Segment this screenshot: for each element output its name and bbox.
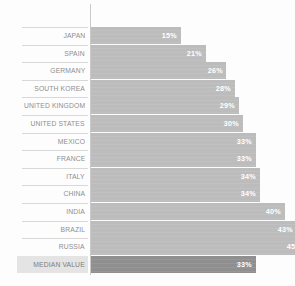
- bar-value-label: 34%: [241, 189, 256, 198]
- chart-row: FRANCE33%: [0, 150, 295, 167]
- category-label-cell: SPAIN: [22, 45, 88, 62]
- category-label-cell: MEDIAN VALUE: [17, 256, 88, 273]
- category-label: SOUTH KOREA: [34, 84, 85, 93]
- category-label: FRANCE: [56, 154, 85, 163]
- bar-value-label: 21%: [187, 49, 202, 58]
- horizontal-bar-chart: JAPAN15%SPAIN21%GERMANY26%SOUTH KOREA28%…: [0, 0, 295, 286]
- category-label: RUSSIA: [59, 242, 85, 251]
- bar: 40%: [91, 203, 285, 220]
- bar: 28%: [91, 80, 235, 97]
- chart-row: SPAIN21%: [0, 45, 295, 62]
- bar-value-label: 33%: [237, 154, 252, 163]
- category-label-cell: BRAZIL: [22, 221, 88, 238]
- category-label-cell: ITALY: [22, 168, 88, 185]
- chart-row: ITALY34%: [0, 168, 295, 185]
- category-label: UNITED KINGDOM: [24, 101, 85, 110]
- chart-row: MEXICO33%: [0, 133, 295, 150]
- category-label-cell: GERMANY: [22, 62, 88, 79]
- bar: 34%: [91, 168, 260, 185]
- bar-value-label: 30%: [224, 119, 239, 128]
- category-label: SPAIN: [65, 49, 85, 58]
- bar: 29%: [91, 97, 239, 114]
- bar-value-label: 28%: [216, 84, 231, 93]
- bar: 33%: [91, 133, 256, 150]
- chart-row: UNITED STATES30%: [0, 115, 295, 132]
- bar: 30%: [91, 115, 243, 132]
- bar-value-label: 29%: [220, 101, 235, 110]
- category-label-cell: INDIA: [22, 203, 88, 220]
- category-label: MEDIAN VALUE: [33, 260, 85, 269]
- bar: 26%: [91, 62, 226, 79]
- bar: 33%: [91, 150, 256, 167]
- bar: 33%: [91, 256, 256, 273]
- chart-row: CHINA34%: [0, 185, 295, 202]
- bar: 43%: [91, 221, 295, 238]
- bar: 15%: [91, 27, 181, 44]
- category-label-cell: CHINA: [22, 185, 88, 202]
- bar-value-label: 34%: [241, 172, 256, 181]
- chart-row: RUSSIA45%: [0, 238, 295, 255]
- category-label: CHINA: [63, 189, 85, 198]
- category-label: BRAZIL: [60, 225, 85, 234]
- category-label-cell: UNITED STATES: [22, 115, 88, 132]
- category-label: INDIA: [66, 207, 85, 216]
- bar-value-label: 26%: [207, 66, 222, 75]
- chart-row: SOUTH KOREA28%: [0, 80, 295, 97]
- category-label: UNITED STATES: [31, 119, 85, 128]
- chart-row: BRAZIL43%: [0, 221, 295, 238]
- category-label-cell: FRANCE: [22, 150, 88, 167]
- bar-value-label: 40%: [266, 207, 281, 216]
- category-label-cell: UNITED KINGDOM: [22, 97, 88, 114]
- bar: 45%: [91, 238, 295, 255]
- bar-value-label: 43%: [278, 225, 293, 234]
- category-label-cell: RUSSIA: [22, 238, 88, 255]
- bar-value-label: 33%: [237, 260, 252, 269]
- category-label-cell: SOUTH KOREA: [22, 80, 88, 97]
- category-label: JAPAN: [63, 31, 85, 40]
- chart-row: GERMANY26%: [0, 62, 295, 79]
- category-label-cell: MEXICO: [22, 133, 88, 150]
- category-label: ITALY: [67, 172, 85, 181]
- bar-value-label: 45%: [287, 242, 295, 251]
- bar: 21%: [91, 45, 206, 62]
- chart-row: INDIA40%: [0, 203, 295, 220]
- chart-row: MEDIAN VALUE33%: [0, 256, 295, 273]
- bar: 34%: [91, 185, 260, 202]
- chart-row: UNITED KINGDOM29%: [0, 97, 295, 114]
- bar-value-label: 15%: [162, 31, 177, 40]
- bar-value-label: 33%: [237, 137, 252, 146]
- chart-row: JAPAN15%: [0, 27, 295, 44]
- category-label: MEXICO: [57, 137, 85, 146]
- category-label: GERMANY: [50, 66, 85, 75]
- category-label-cell: JAPAN: [22, 27, 88, 44]
